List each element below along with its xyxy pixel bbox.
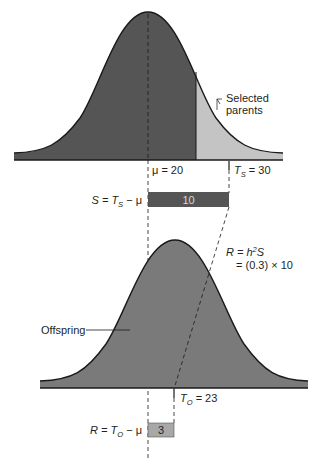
response-label: R = TO − μ [90, 424, 142, 439]
response-equation: R = h2S = (0.3) × 10 [226, 245, 293, 271]
parent-mean-label: μ = 20 [152, 164, 183, 176]
response-equation-line1: R = h2S [226, 245, 265, 258]
response-equation-line2: = (0.3) × 10 [236, 259, 293, 271]
offspring-label: Offspring [41, 324, 85, 336]
threshold-ts-label: TS = 30 [234, 164, 271, 179]
response-value: 3 [158, 424, 164, 436]
selection-response-diagram: Selected parents μ = 20 TS = 30 S = TS −… [0, 0, 320, 464]
offspring-mean-label: TO = 23 [180, 392, 217, 407]
selection-differential: S = TS − μ 10 [92, 192, 229, 209]
selection-differential-value: 10 [182, 194, 194, 206]
response: R = TO − μ 3 [90, 423, 174, 439]
selected-parents-label-line2: parents [226, 104, 263, 116]
selection-differential-label: S = TS − μ [92, 194, 142, 209]
selected-parents-label-line1: Selected [226, 92, 269, 104]
parent-curve-fill [14, 12, 283, 160]
parent-distribution: Selected parents [14, 12, 283, 160]
selected-parents-leader [217, 99, 222, 110]
